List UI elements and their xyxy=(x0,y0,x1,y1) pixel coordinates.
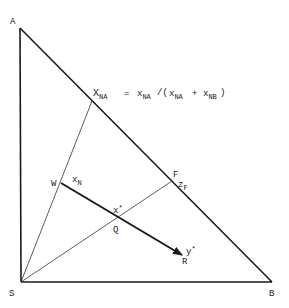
formula-xna: XNA = xNA /( xNA + xNB ) xyxy=(93,88,225,101)
label-ystar: y* xyxy=(186,245,196,257)
arrow-w-r xyxy=(61,183,182,255)
svg-text:+: + xyxy=(192,89,197,99)
label-a: A xyxy=(10,17,16,27)
label-q: Q xyxy=(113,225,118,235)
svg-text:xNA: xNA xyxy=(169,89,184,101)
svg-text:xNA: xNA xyxy=(137,89,152,101)
edge-a-b xyxy=(20,28,272,282)
label-b: B xyxy=(269,289,275,299)
edge-s-a xyxy=(20,28,21,282)
label-zf: zF xyxy=(178,180,188,192)
label-xstar: x* xyxy=(113,204,123,216)
svg-text:/(: /( xyxy=(157,88,168,98)
triangle-diagram: A S B XNA = xNA /( xNA + xNB ) F zF W xN… xyxy=(0,0,289,308)
line-s-xna xyxy=(21,101,92,282)
svg-text:XNA: XNA xyxy=(93,88,108,101)
label-r: R xyxy=(182,257,188,267)
label-s: S xyxy=(9,289,14,299)
label-w: W xyxy=(51,179,57,189)
svg-text:=: = xyxy=(124,89,129,99)
line-s-f xyxy=(21,181,172,282)
svg-text:xNB: xNB xyxy=(203,89,217,101)
label-xn: xN xyxy=(72,175,82,187)
label-f: F xyxy=(173,170,178,180)
svg-text:): ) xyxy=(220,88,225,98)
